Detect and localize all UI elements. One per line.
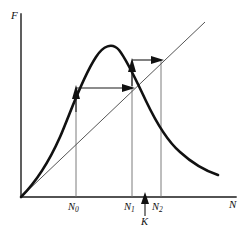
tick-label-n1-sub: 1 — [131, 205, 135, 214]
carrying-capacity-label: K — [141, 217, 148, 228]
arrow-up-to-k-head — [141, 192, 149, 204]
tick-label-n0-base: N — [68, 201, 75, 212]
y-axis-label: F — [11, 10, 18, 21]
tick-label-n1: N1 — [124, 202, 135, 213]
tick-label-n2: N2 — [152, 202, 163, 213]
tick-label-n0: N0 — [68, 202, 79, 213]
tick-label-n2-base: N — [152, 201, 159, 212]
recruitment-curve-figure: F N N0 N1 N2 K — [0, 0, 250, 238]
tick-label-n0-sub: 0 — [75, 205, 79, 214]
recruitment-curve-path — [21, 46, 218, 197]
tick-label-n2-sub: 2 — [159, 205, 163, 214]
guide-lines-group — [76, 60, 161, 197]
replacement-line — [21, 22, 205, 197]
x-axis-label: N — [229, 199, 236, 210]
tick-label-n1-base: N — [124, 201, 131, 212]
